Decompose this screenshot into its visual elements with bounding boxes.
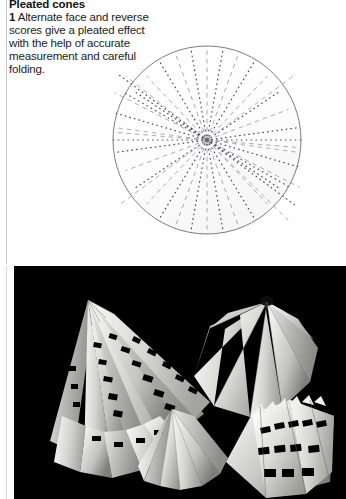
page-title: Pleated cones [9,0,154,11]
photo-frame [10,262,346,499]
photo-image [14,266,346,499]
pleated-cone-models-illustration [14,266,346,499]
left-margin-rule-lower [6,266,7,499]
scoring-circle-svg [108,34,318,250]
center-hub [205,138,209,142]
left-margin-rule [6,0,7,264]
pleated-cone-scoring-diagram [108,34,318,250]
